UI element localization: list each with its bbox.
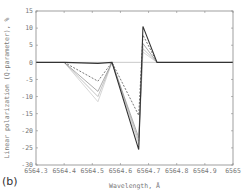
y-tick-label: -15 bbox=[21, 110, 33, 118]
y-axis-ticks: 151050-5-10-15-20-25-30 bbox=[21, 7, 233, 169]
x-tick-label: 6564.4 bbox=[52, 167, 76, 175]
y-tick-label: -25 bbox=[21, 144, 33, 152]
x-tick-label: 6564.3 bbox=[24, 167, 48, 175]
x-tick-label: 6564.6 bbox=[109, 167, 133, 175]
x-tick-label: 6564.8 bbox=[165, 167, 189, 175]
x-tick-label: 6565 bbox=[225, 167, 241, 175]
panel-label: (b) bbox=[2, 175, 18, 188]
y-tick-label: -10 bbox=[21, 93, 33, 101]
plot-frame bbox=[36, 11, 233, 165]
y-tick-label: 10 bbox=[25, 24, 33, 32]
x-tick-label: 6564.9 bbox=[193, 167, 217, 175]
y-tick-label: 15 bbox=[25, 7, 33, 15]
x-tick-label: 6564.7 bbox=[137, 167, 161, 175]
data-series bbox=[36, 26, 233, 149]
y-tick-label: -5 bbox=[25, 76, 33, 84]
y-tick-label: -20 bbox=[21, 127, 33, 135]
x-axis-ticks: 6564.36564.46564.56564.66564.76564.86564… bbox=[24, 11, 241, 175]
y-tick-label: 5 bbox=[29, 41, 33, 49]
polarization-chart: 151050-5-10-15-20-25-30 6564.36564.46564… bbox=[0, 0, 243, 196]
x-tick-label: 6564.5 bbox=[81, 167, 105, 175]
x-axis-label: Wavelength, Å bbox=[109, 181, 160, 190]
series-3-line bbox=[64, 44, 157, 138]
y-tick-label: 0 bbox=[29, 59, 33, 67]
y-axis-label: Linear polarization (Q-parameter), % bbox=[3, 17, 11, 158]
